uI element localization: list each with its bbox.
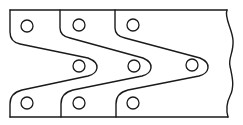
break-line	[226, 10, 233, 117]
bolt-hole-middle-3	[186, 59, 198, 71]
bolt-hole-top-3	[127, 19, 139, 31]
bolt-hole-top-2	[73, 19, 85, 31]
bolt-hole-middle-2	[128, 60, 140, 72]
bolt-hole-bottom-2	[73, 97, 85, 109]
bolt-hole-bottom-3	[127, 97, 139, 109]
lap-joint-diagram	[0, 0, 243, 125]
bolt-hole-bottom-1	[21, 97, 33, 109]
bolt-hole-top-1	[21, 20, 33, 32]
bolt-hole-middle-1	[73, 60, 85, 72]
